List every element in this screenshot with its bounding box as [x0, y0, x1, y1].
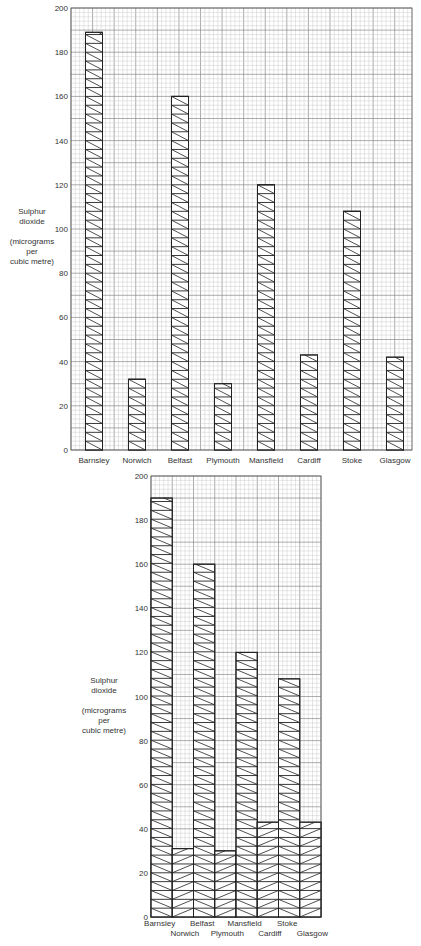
bar-mansfield: [236, 652, 257, 917]
y-tick-label: 180: [55, 48, 69, 57]
x-category-label: Norwich: [123, 456, 152, 465]
bar-cardiff: [301, 355, 318, 450]
y-tick-label: 80: [59, 269, 68, 278]
bar-barnsley: [151, 498, 172, 917]
y-tick-label: 40: [59, 358, 68, 367]
y-axis-label: dioxide: [91, 686, 117, 695]
x-category-label: Plymouth: [211, 929, 244, 938]
bar-glasgow: [300, 822, 321, 917]
y-axis-label: (micrograms: [82, 706, 126, 715]
x-category-label: Stoke: [277, 919, 298, 928]
y-tick-label: 160: [135, 560, 149, 569]
bar-mansfield: [258, 185, 275, 450]
y-tick-label: 140: [135, 604, 149, 613]
bar-barnsley: [86, 32, 103, 450]
y-tick-label: 40: [139, 825, 148, 834]
y-tick-label: 0: [64, 446, 69, 455]
y-axis-label: dioxide: [19, 217, 45, 226]
x-category-label: Plymouth: [206, 456, 239, 465]
bar-plymouth: [215, 851, 236, 917]
bar-belfast: [172, 96, 189, 450]
y-tick-label: 100: [55, 225, 69, 234]
top-bar-chart: BarnsleyNorwichBelfastPlymouthMansfieldC…: [10, 4, 412, 465]
x-category-label: Cardiff: [258, 929, 282, 938]
y-axis-label: Sulphur: [18, 207, 46, 216]
y-tick-label: 140: [55, 137, 69, 146]
x-category-label: Glasgow: [297, 929, 328, 938]
x-category-label: Cardiff: [297, 456, 321, 465]
y-tick-label: 0: [144, 913, 149, 922]
y-tick-label: 20: [139, 869, 148, 878]
y-tick-label: 80: [139, 737, 148, 746]
y-axis-label: (micrograms: [10, 237, 54, 246]
y-axis-label: per: [98, 716, 110, 725]
x-category-label: Mansfield: [228, 919, 262, 928]
bar-stoke: [279, 679, 300, 917]
y-axis-label: cubic metre): [10, 257, 54, 266]
y-tick-label: 200: [55, 4, 69, 13]
bar-cardiff: [257, 822, 278, 917]
y-axis-label: Sulphur: [90, 676, 118, 685]
x-category-label: Belfast: [168, 456, 193, 465]
x-category-label: Belfast: [190, 919, 215, 928]
y-tick-label: 60: [139, 781, 148, 790]
y-axis-label: cubic metre): [82, 726, 126, 735]
x-category-label: Mansfield: [249, 456, 283, 465]
x-category-label: Barnsley: [78, 456, 109, 465]
bar-plymouth: [215, 384, 232, 450]
y-tick-label: 20: [59, 402, 68, 411]
x-category-label: Barnsley: [144, 919, 175, 928]
bar-norwich: [172, 849, 193, 917]
x-category-label: Norwich: [170, 929, 199, 938]
bar-stoke: [344, 211, 361, 450]
y-tick-label: 200: [135, 472, 149, 481]
y-tick-label: 100: [135, 693, 149, 702]
bar-norwich: [129, 379, 146, 450]
sulphur-dioxide-charts: BarnsleyNorwichBelfastPlymouthMansfieldC…: [0, 0, 421, 946]
bar-glasgow: [387, 357, 404, 450]
y-tick-label: 180: [135, 516, 149, 525]
x-category-label: Glasgow: [379, 456, 410, 465]
y-axis-label: per: [26, 247, 38, 256]
bar-belfast: [194, 564, 215, 917]
y-tick-label: 120: [55, 181, 69, 190]
bottom-bar-chart: BarnsleyNorwichBelfastPlymouthMansfieldC…: [82, 472, 328, 938]
y-tick-label: 60: [59, 313, 68, 322]
y-tick-label: 160: [55, 92, 69, 101]
y-tick-label: 120: [135, 648, 149, 657]
x-category-label: Stoke: [342, 456, 363, 465]
